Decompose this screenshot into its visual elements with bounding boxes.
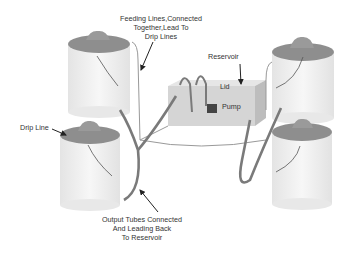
lid-label: Lid: [220, 82, 230, 91]
pump: [207, 104, 217, 113]
bucket-top-left: [68, 31, 130, 118]
drip-line-label: Drip Line: [20, 123, 49, 132]
bucket-top-right: [272, 37, 334, 124]
feeding-lines-label: Feeding Lines,Connected Together,Lead To…: [120, 14, 202, 41]
bucket-bottom-left: [60, 121, 120, 211]
reservoir-label: Reservoir: [208, 52, 239, 61]
reservoir: [168, 76, 266, 126]
bucket-bottom-right: [272, 119, 332, 210]
output-tubes-label: Output Tubes Connected And Leading Back …: [102, 215, 182, 242]
pump-label: Pump: [222, 102, 241, 111]
